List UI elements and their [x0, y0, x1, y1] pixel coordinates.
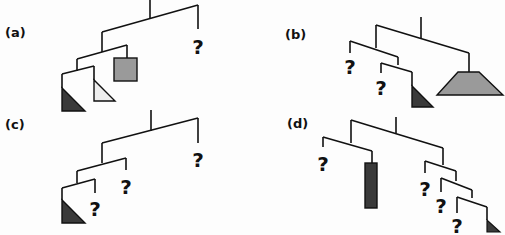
dark-triangle-clade — [487, 220, 500, 232]
unknown-taxon-marker: ? — [317, 152, 329, 176]
dark-triangle-clade — [62, 200, 85, 223]
panel-d: (d) ? ? ? ? — [287, 116, 500, 235]
panel-label-d: (d) — [287, 116, 308, 131]
panel-label-b: (b) — [285, 27, 306, 42]
unknown-taxon-marker: ? — [192, 148, 204, 172]
gray-trapezoid-clade — [437, 72, 503, 95]
phylogenetic-tree-figure: (a) ? (b) — [0, 0, 505, 235]
tree-branches-b — [350, 17, 469, 86]
figure-svg: (a) ? (b) — [0, 0, 505, 235]
unknown-taxon-marker: ? — [344, 55, 356, 79]
unknown-taxon-marker: ? — [192, 35, 204, 59]
dark-triangle-clade — [62, 88, 85, 111]
panel-a: (a) ? — [5, 0, 204, 111]
panel-label-a: (a) — [5, 25, 26, 40]
panel-b: (b) ? ? — [285, 17, 503, 107]
panel-c: (c) ? ? ? — [5, 110, 204, 223]
tree-branches-d — [323, 117, 487, 220]
unknown-taxon-marker: ? — [375, 76, 387, 100]
unknown-taxon-marker: ? — [451, 214, 463, 235]
dark-bar-clade — [365, 163, 377, 208]
unknown-taxon-marker: ? — [89, 197, 101, 221]
unknown-taxon-marker: ? — [120, 175, 132, 199]
unknown-taxon-marker: ? — [435, 194, 447, 218]
light-triangle-clade — [94, 80, 115, 101]
unknown-taxon-marker: ? — [419, 177, 431, 201]
gray-square-clade — [114, 58, 137, 81]
dark-triangle-clade — [412, 86, 433, 107]
panel-label-c: (c) — [5, 117, 25, 132]
